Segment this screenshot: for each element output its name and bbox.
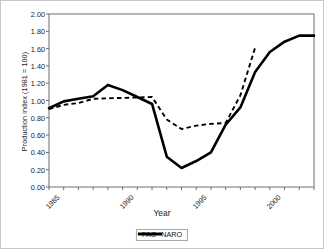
chart-legend: FAO NARO: [136, 229, 188, 241]
axis-ticks: [46, 14, 314, 190]
legend-swatch-naro-icon: [137, 230, 163, 238]
legend-label-naro: NARO: [161, 231, 182, 238]
chart-figure: Production index (1981 = 100) Year 2.001…: [0, 0, 324, 249]
legend-item-naro: NARO: [161, 231, 182, 238]
series-line-naro: [49, 36, 314, 168]
series-line-fao: [49, 48, 255, 129]
plot-canvas: [1, 1, 324, 249]
